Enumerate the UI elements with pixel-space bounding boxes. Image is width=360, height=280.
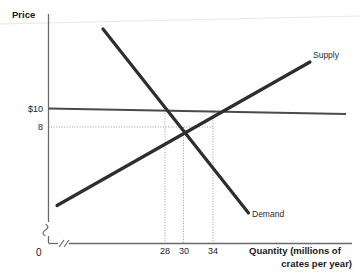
- chart-canvas: Price $10 8 28 30 34 0 Supply Demand Qua…: [0, 0, 360, 280]
- x-axis-title-line2: crates per year): [281, 258, 352, 269]
- supply-curve-label: Supply: [313, 50, 340, 60]
- origin-label: 0: [36, 247, 42, 258]
- y-tick-label-8: 8: [38, 122, 43, 132]
- x-axis-title-line1: Quantity (millions of: [249, 245, 342, 256]
- y-axis-title: Price: [12, 9, 35, 20]
- y-tick-label-10: $10: [28, 104, 43, 114]
- x-tick-label-34: 34: [208, 246, 218, 256]
- chart-background: [0, 0, 360, 280]
- x-tick-label-28: 28: [160, 246, 170, 256]
- supply-demand-chart: Price $10 8 28 30 34 0 Supply Demand Qua…: [0, 0, 360, 280]
- demand-curve-label: Demand: [252, 209, 284, 219]
- x-tick-label-30: 30: [179, 246, 189, 256]
